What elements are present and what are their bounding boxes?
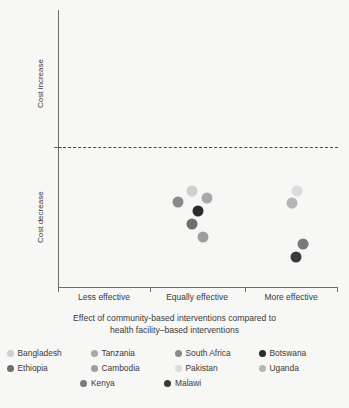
scatter-point-ethiopia — [187, 219, 198, 230]
scatter-point-kenya — [298, 239, 309, 250]
scatter-point-pakistan — [292, 186, 303, 197]
x-axis-line — [58, 287, 338, 288]
legend-dot-icon — [175, 350, 182, 357]
legend-item-pakistan[interactable]: Pakistan — [175, 364, 259, 372]
x-axis-title-line-1: Effect of community-based interventions … — [0, 313, 349, 325]
legend-label: Pakistan — [186, 364, 218, 372]
legend-label: Cambodia — [102, 364, 140, 372]
legend-row-1: EthiopiaCambodiaPakistanUganda — [0, 361, 349, 376]
legend-dot-icon — [91, 365, 98, 372]
scatter-point-tanzania — [202, 193, 213, 204]
legend-dot-icon — [164, 380, 171, 387]
chart-legend: BangladeshTanzaniaSouth AfricaBotswanaEt… — [0, 346, 349, 391]
x-axis-category-more-effective: More effective — [241, 292, 341, 302]
scatter-point-south-africa — [173, 197, 184, 208]
legend-label: Uganda — [270, 364, 299, 372]
legend-dot-icon — [91, 350, 98, 357]
legend-row-0: BangladeshTanzaniaSouth AfricaBotswana — [0, 346, 349, 361]
y-axis-category-cost-decrease: Cost decrease — [36, 191, 45, 243]
scatter-point-botswana — [193, 206, 204, 217]
x-axis-category-equally-effective: Equally effective — [147, 292, 247, 302]
legend-label: Malawi — [175, 379, 201, 387]
legend-item-malawi[interactable]: Malawi — [164, 379, 248, 387]
scatter-point-cambodia — [198, 232, 209, 243]
legend-item-cambodia[interactable]: Cambodia — [91, 364, 175, 372]
legend-item-kenya[interactable]: Kenya — [80, 379, 164, 387]
legend-item-uganda[interactable]: Uganda — [259, 364, 343, 372]
legend-label: Bangladesh — [18, 349, 62, 357]
chart-figure: Change in cost per TB patient Cost incre… — [0, 0, 349, 408]
y-axis-category-cost-increase: Cost increase — [36, 59, 45, 108]
legend-item-south-africa[interactable]: South Africa — [175, 349, 259, 357]
legend-item-ethiopia[interactable]: Ethiopia — [7, 364, 91, 372]
scatter-point-uganda — [287, 198, 298, 209]
legend-label: South Africa — [186, 349, 231, 357]
legend-dot-icon — [80, 380, 87, 387]
legend-label: Tanzania — [102, 349, 136, 357]
legend-row-2: KenyaMalawi — [0, 376, 349, 391]
legend-item-tanzania[interactable]: Tanzania — [91, 349, 175, 357]
x-axis-title-line-2: health facility–based interventions — [0, 325, 349, 337]
x-axis-title: Effect of community-based interventions … — [0, 313, 349, 336]
x-axis-category-less-effective: Less effective — [54, 292, 154, 302]
scatter-point-malawi — [291, 252, 302, 263]
scatter-point-bangladesh — [187, 186, 198, 197]
legend-dot-icon — [259, 365, 266, 372]
legend-label: Botswana — [270, 349, 307, 357]
legend-label: Ethiopia — [18, 364, 48, 372]
legend-item-botswana[interactable]: Botswana — [259, 349, 343, 357]
legend-item-bangladesh[interactable]: Bangladesh — [7, 349, 91, 357]
reference-line-no-cost-change — [58, 147, 338, 148]
legend-dot-icon — [175, 365, 182, 372]
legend-label: Kenya — [91, 379, 115, 387]
legend-dot-icon — [7, 350, 14, 357]
legend-dot-icon — [7, 365, 14, 372]
legend-dot-icon — [259, 350, 266, 357]
y-axis-line — [58, 10, 59, 288]
